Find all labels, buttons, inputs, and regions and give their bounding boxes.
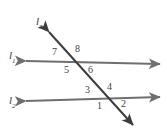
angle-label-4: 4 [107, 82, 112, 92]
line-label-l1-subscript: 1 [12, 57, 16, 65]
line-l1 [26, 61, 160, 64]
angle-label-7: 7 [52, 47, 57, 57]
line-l3-transversal [49, 32, 133, 125]
line-label-l2-subscript: 2 [12, 102, 16, 110]
angle-label-5: 5 [64, 65, 69, 75]
angle-label-8: 8 [75, 44, 80, 54]
angle-label-3: 3 [85, 85, 90, 95]
geometry-diagram: l3 l1 l2 7 8 5 6 3 4 1 2 [0, 0, 167, 132]
angle-label-6: 6 [88, 65, 93, 75]
line-label-l1: l1 [9, 50, 16, 64]
geometry-canvas [0, 0, 167, 132]
line-l2 [26, 97, 160, 101]
line-label-l3-subscript: 3 [39, 23, 43, 31]
line-label-l3: l3 [36, 16, 43, 30]
line-label-l2: l2 [9, 95, 16, 109]
angle-label-1: 1 [97, 101, 102, 111]
angle-label-2: 2 [121, 99, 126, 109]
